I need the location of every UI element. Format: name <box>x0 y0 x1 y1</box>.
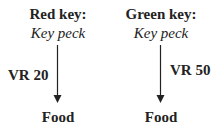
left-arrow-icon <box>54 45 62 103</box>
right-arrow-icon <box>157 45 165 103</box>
arrows <box>0 0 215 125</box>
